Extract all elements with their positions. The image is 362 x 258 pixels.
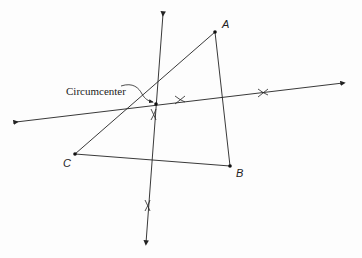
label-c: C <box>63 157 71 169</box>
label-a: A <box>222 18 229 30</box>
arc-marks <box>145 89 268 211</box>
vertex-c-dot <box>73 152 77 156</box>
label-b: B <box>236 167 243 179</box>
vertex-b-dot <box>228 164 232 168</box>
diagram-canvas: A B C Circumcenter <box>0 0 362 258</box>
circumcenter-label: Circumcenter <box>66 85 126 97</box>
arc-mark-icon <box>145 200 150 211</box>
construction-svg <box>0 0 362 258</box>
perpendicular-bisector-bc <box>146 14 163 243</box>
circumcenter-dot <box>154 102 158 106</box>
vertex-a-dot <box>213 30 217 34</box>
side-ab <box>215 32 230 166</box>
